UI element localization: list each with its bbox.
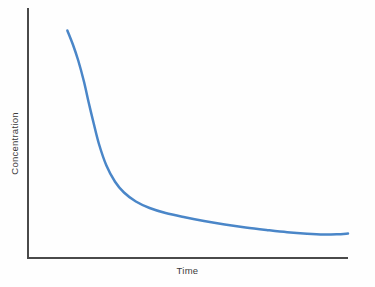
x-axis-label: Time (0, 265, 375, 276)
concentration-decay-curve (67, 31, 348, 235)
concentration-vs-time-chart: Concentration Time (0, 0, 375, 287)
chart-plot-area (0, 0, 375, 287)
y-axis-label: Concentration (8, 0, 22, 287)
